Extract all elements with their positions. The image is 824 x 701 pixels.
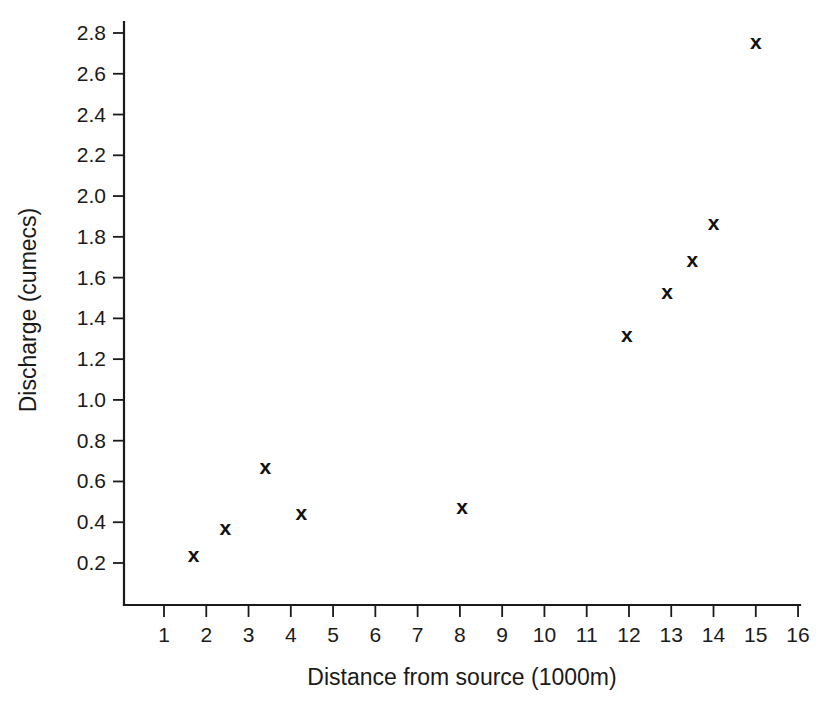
y-axis-ticks: 0.20.40.60.81.01.21.41.61.82.02.22.42.62… (77, 21, 124, 574)
y-tick-label: 1.0 (77, 388, 106, 411)
data-point-marker: x (188, 543, 200, 566)
y-axis-title: Discharge (cumecs) (15, 208, 41, 413)
data-points: xxxxxxxxxx (188, 30, 762, 567)
data-point-marker: x (708, 211, 720, 234)
x-tick-label: 2 (200, 623, 212, 646)
y-tick-label: 2.8 (77, 21, 106, 44)
y-tick-label: 2.2 (77, 143, 106, 166)
y-tick-label: 2.6 (77, 62, 106, 85)
x-tick-label: 16 (786, 623, 809, 646)
x-tick-label: 13 (660, 623, 683, 646)
data-point-marker: x (219, 516, 231, 539)
x-tick-label: 4 (285, 623, 297, 646)
y-tick-label: 0.6 (77, 469, 106, 492)
y-tick-label: 0.8 (77, 429, 106, 452)
x-tick-label: 3 (243, 623, 255, 646)
y-tick-label: 1.2 (77, 347, 106, 370)
x-tick-label: 10 (533, 623, 556, 646)
data-point-marker: x (661, 280, 673, 303)
chart-canvas: 0.20.40.60.81.01.21.41.61.82.02.22.42.62… (0, 0, 824, 701)
x-tick-label: 9 (496, 623, 508, 646)
x-tick-label: 8 (454, 623, 466, 646)
data-point-marker: x (750, 30, 762, 53)
x-tick-label: 15 (744, 623, 767, 646)
data-point-marker: x (296, 501, 308, 524)
x-tick-label: 11 (576, 623, 598, 646)
x-axis-title: Distance from source (1000m) (307, 664, 616, 690)
y-tick-label: 0.2 (77, 551, 106, 574)
y-tick-label: 1.8 (77, 225, 106, 248)
x-tick-label: 5 (327, 623, 339, 646)
x-tick-label: 7 (412, 623, 424, 646)
x-tick-label: 6 (370, 623, 382, 646)
data-point-marker: x (621, 323, 633, 346)
scatter-chart: 0.20.40.60.81.01.21.41.61.82.02.22.42.62… (0, 0, 824, 701)
data-point-marker: x (456, 495, 468, 518)
data-point-marker: x (260, 455, 272, 478)
y-tick-label: 2.4 (77, 103, 107, 126)
x-tick-label: 12 (617, 623, 640, 646)
x-axis-ticks: 12345678910111213141516 (158, 605, 810, 646)
x-tick-label: 14 (702, 623, 726, 646)
data-point-marker: x (687, 248, 699, 271)
x-tick-label: 1 (158, 623, 170, 646)
y-tick-label: 1.6 (77, 266, 106, 289)
y-tick-label: 0.4 (77, 510, 107, 533)
y-tick-label: 2.0 (77, 184, 106, 207)
y-tick-label: 1.4 (77, 306, 107, 329)
